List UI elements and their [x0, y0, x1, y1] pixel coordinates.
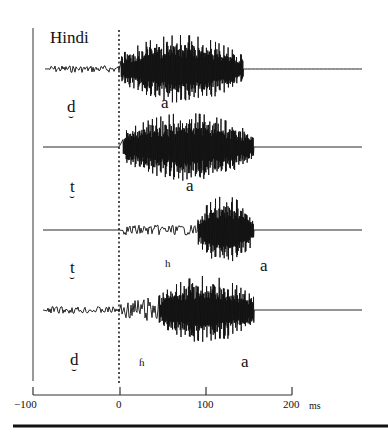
dental-diacritic-icon: ⌣ — [68, 112, 74, 121]
dental-diacritic-icon: ⌣ — [71, 365, 77, 374]
row4-consonant-label: d⌣ — [70, 351, 79, 368]
row3-vowel-label: a — [260, 257, 268, 274]
axis-tick-200: 200 — [283, 399, 300, 410]
row2-vowel-label: a — [186, 177, 194, 194]
row1-vowel-label: a — [161, 94, 169, 111]
waveform-row-1 — [45, 35, 362, 102]
waveform-figure — [0, 0, 388, 439]
dental-diacritic-icon: ⌣ — [69, 192, 75, 201]
waveform-row-3 — [43, 197, 362, 261]
row4-vowel-label: a — [241, 353, 249, 370]
waveform-rows — [43, 35, 362, 342]
figure-title: Hindi — [50, 29, 89, 46]
row1-consonant-label: d⌣ — [67, 98, 76, 115]
row3-aspiration-label: h — [165, 258, 171, 269]
time-axis — [33, 387, 292, 395]
row4-breathy-label: ɦ — [139, 357, 145, 368]
dental-diacritic-icon: ⌣ — [69, 273, 75, 282]
waveform-row-2 — [43, 113, 362, 180]
waveform-row-4 — [43, 276, 362, 342]
row3-consonant-label: t⌣ — [70, 259, 75, 276]
row2-consonant-label: t⌣ — [70, 178, 75, 195]
axis-tick-0: 0 — [116, 399, 122, 410]
axis-tick-minus100: −100 — [14, 399, 37, 410]
axis-unit-label: ms — [309, 401, 321, 411]
axis-tick-100: 100 — [197, 399, 214, 410]
